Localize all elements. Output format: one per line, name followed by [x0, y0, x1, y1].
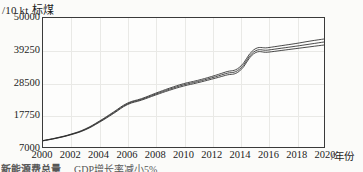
legend-cropped: 新能源费总量 GDP增长率减小5% [0, 163, 363, 172]
x-tick-label: 2002 [60, 150, 81, 161]
x-tick-label: 2004 [88, 150, 109, 161]
chart-container: /10 kt 标煤 50000 39250 28500 17750 7000 2… [0, 0, 363, 172]
x-tick-label: 2014 [230, 150, 251, 161]
x-tick-label: 2008 [145, 150, 166, 161]
y-tick-label: 50000 [0, 12, 40, 23]
x-tick-label: 2006 [116, 150, 137, 161]
x-tick-label: 2016 [258, 150, 279, 161]
series-line-upper [43, 39, 324, 141]
y-tick-label: 28500 [0, 77, 40, 88]
series-line-middle [43, 42, 324, 141]
x-tick-label: 2012 [201, 150, 222, 161]
series-lines [43, 18, 324, 147]
series-line-lower [43, 45, 324, 141]
y-tick-label: 39250 [0, 45, 40, 56]
x-tick-label: 2000 [32, 150, 53, 161]
legend-label-left: 新能源费总量 [1, 163, 61, 172]
plot-area [42, 17, 325, 148]
legend-label-right: GDP增长率减小5% [74, 163, 157, 172]
x-tick-label: 2010 [173, 150, 194, 161]
x-tick-label: 2018 [286, 150, 307, 161]
x-axis-unit-label: /年份 [331, 148, 354, 163]
y-tick-label: 17750 [0, 110, 40, 121]
y-axis-tick-labels: 50000 39250 28500 17750 7000 [0, 0, 40, 172]
